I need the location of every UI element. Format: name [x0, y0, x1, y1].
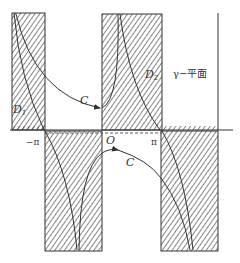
label-plane: γ−平面 [173, 68, 207, 79]
curve-c-lower [102, 149, 118, 153]
label-c-upper: C [80, 94, 89, 107]
curve-c-lower-continuation [118, 150, 161, 178]
gamma-plane-diagram: D1 D2 C C γ−平面 −π O π [0, 0, 240, 263]
tick-neg-pi: −π [26, 137, 40, 147]
hatched-axis-band-left [12, 126, 45, 130]
hatched-axis-band-right [162, 126, 218, 130]
tick-pi: π [151, 137, 157, 147]
label-c-lower: C [126, 156, 135, 169]
tick-origin: O [106, 134, 115, 147]
